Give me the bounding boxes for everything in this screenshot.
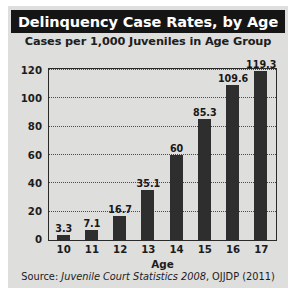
source-note: Source: Juvenile Court Statistics 2008, … [8,271,288,282]
source-prefix: Source: [21,271,61,282]
y-axis-tick-label: 80 [8,121,42,132]
bar-value-label: 16.7 [98,204,142,215]
bar-value-label: 109.6 [211,73,255,84]
source-suffix: , OJJDP (2011) [206,271,275,282]
bar [141,190,154,240]
x-axis-tick-label: 17 [241,244,281,255]
y-axis-tick-label: 120 [8,64,42,75]
bar-value-label: 35.1 [126,178,170,189]
y-axis-tick-label: 40 [8,177,42,188]
bar [226,85,239,240]
plot-inner [49,69,276,240]
bar-value-label: 119.3 [239,59,283,70]
chart-title: Delinquency Case Rates, by Age [18,14,278,30]
chart-panel: Delinquency Case Rates, by Age Cases per… [8,6,288,288]
bar [85,230,98,240]
y-axis-tick-label: 20 [8,206,42,217]
bar [57,235,70,240]
y-axis-tick-label: 0 [8,234,42,245]
bar [113,216,126,240]
y-axis-tick-label: 100 [8,92,42,103]
bar-value-label: 60 [155,143,199,154]
gridline [49,211,276,212]
x-axis-title: Age [48,258,277,270]
chart-subtitle: Cases per 1,000 Juveniles in Age Group [8,35,288,48]
gridline [49,154,276,155]
chart-title-bar: Delinquency Case Rates, by Age [11,10,285,33]
bar-value-label: 85.3 [183,107,227,118]
source-publication: Juvenile Court Statistics 2008 [61,271,206,282]
bar [254,71,267,240]
y-axis-tick-label: 60 [8,149,42,160]
gridline [49,126,276,127]
bar [170,155,183,240]
plot-area [48,68,277,241]
bar-value-label: 7.1 [70,218,114,229]
bar [198,119,211,240]
gridline [49,97,276,98]
